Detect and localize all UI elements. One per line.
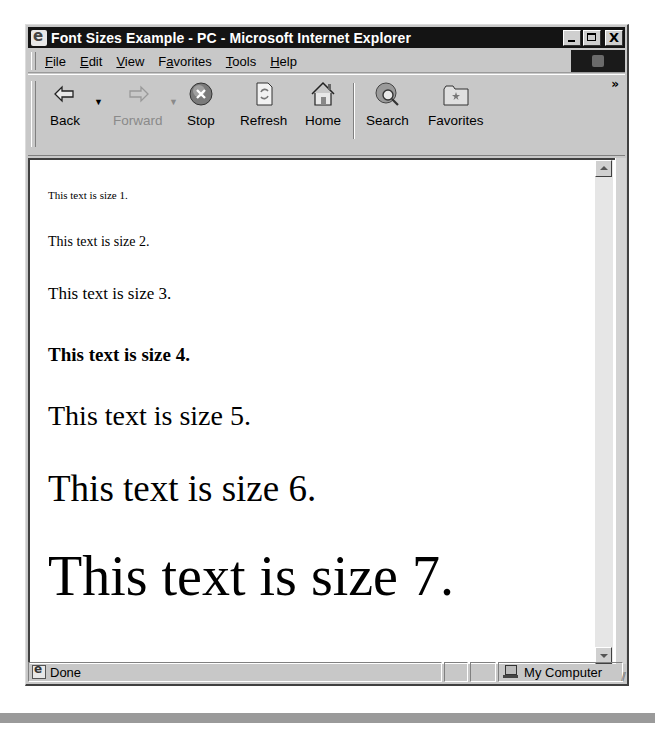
- text-size-4: This text is size 4.: [48, 345, 190, 364]
- ie-logo-icon[interactable]: [31, 30, 47, 46]
- menu-file[interactable]: File: [45, 54, 66, 69]
- text-size-7: This text is size 7.: [48, 548, 454, 604]
- browser-window: Font Sizes Example - PC - Microsoft Inte…: [25, 24, 629, 686]
- favorites-button[interactable]: Favorites: [428, 81, 484, 128]
- forward-arrow-icon: [124, 81, 152, 107]
- status-panel-progress: [444, 662, 468, 682]
- forward-button[interactable]: Forward: [113, 81, 163, 128]
- my-computer-icon: [503, 665, 519, 679]
- menu-tools[interactable]: Tools: [226, 54, 256, 69]
- refresh-icon: [250, 81, 278, 107]
- text-size-2: This text is size 2.: [48, 235, 150, 249]
- stop-icon: [187, 81, 215, 107]
- forward-dropdown-arrow[interactable]: ▼: [169, 97, 178, 107]
- home-icon: [309, 81, 337, 107]
- back-dropdown-arrow[interactable]: ▼: [94, 97, 103, 107]
- search-button[interactable]: Search: [366, 81, 409, 128]
- standard-toolbar: Back ▼ Forward ▼ Stop Refresh Ho: [28, 74, 625, 156]
- page-content: This text is size 1. This text is size 2…: [28, 158, 617, 664]
- windows-logo-throbber-icon: [571, 50, 625, 72]
- menu-edit[interactable]: Edit: [80, 54, 102, 69]
- close-button[interactable]: X: [605, 30, 623, 46]
- maximize-button[interactable]: [583, 30, 601, 46]
- favorites-folder-icon: [442, 81, 470, 107]
- window-title: Font Sizes Example - PC - Microsoft Inte…: [51, 30, 563, 46]
- window-frame-right: [615, 158, 626, 664]
- toolbar-separator: [353, 83, 355, 139]
- minimize-button[interactable]: [563, 30, 581, 46]
- home-button[interactable]: Home: [305, 81, 341, 128]
- status-panel-main: Done: [28, 662, 442, 682]
- status-bar: Done My Computer: [28, 662, 625, 682]
- text-size-5: This text is size 5.: [48, 402, 251, 430]
- menu-bar: File Edit View Favorites Tools Help: [28, 50, 625, 73]
- menubar-grip[interactable]: [31, 52, 36, 70]
- vertical-scrollbar[interactable]: [595, 158, 613, 664]
- page-done-icon: [32, 665, 46, 679]
- toolbar-more-chevron-icon[interactable]: »: [611, 77, 619, 91]
- menu-view[interactable]: View: [116, 54, 144, 69]
- stop-button[interactable]: Stop: [187, 81, 215, 128]
- search-icon: [373, 81, 401, 107]
- back-arrow-icon: [51, 81, 79, 107]
- back-button[interactable]: Back: [50, 81, 80, 128]
- menu-favorites[interactable]: Favorites: [158, 54, 211, 69]
- toolbar-grip[interactable]: [31, 81, 36, 147]
- menu-help[interactable]: Help: [270, 54, 297, 69]
- title-bar[interactable]: Font Sizes Example - PC - Microsoft Inte…: [28, 27, 625, 48]
- text-size-6: This text is size 6.: [48, 470, 316, 507]
- decorative-divider-band: [0, 713, 655, 723]
- refresh-button[interactable]: Refresh: [240, 81, 287, 128]
- text-size-3: This text is size 3.: [48, 285, 171, 302]
- text-size-1: This text is size 1.: [48, 190, 128, 201]
- status-panel-zone: My Computer: [498, 662, 623, 682]
- status-panel-security: [470, 662, 496, 682]
- scroll-up-button[interactable]: [595, 160, 612, 177]
